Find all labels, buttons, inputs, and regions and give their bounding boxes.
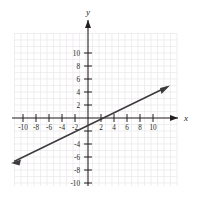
y-axis	[84, 20, 92, 186]
x-axis-label: x	[183, 113, 188, 123]
y-tick-label-2: 2	[76, 102, 80, 110]
x-tick-label-neg8: -8	[33, 124, 39, 132]
x-tick-label-neg4: -4	[59, 124, 65, 132]
y-tick-label-4: 4	[76, 89, 80, 97]
y-tick-label-neg10: -10	[70, 180, 80, 188]
y-axis-label: y	[85, 7, 90, 17]
x-tick-label-neg10: -10	[18, 124, 28, 132]
y-tick-label-neg6: -6	[74, 154, 80, 162]
y-tick-label-8: 8	[76, 63, 80, 71]
x-tick-label-10: 10	[149, 124, 157, 132]
x-tick-label-6: 6	[125, 124, 129, 132]
coordinate-graph: -10 -8 -6 -4 -2 2 4 6 8 10 2 4 6 8 10 -4…	[0, 0, 201, 198]
graph-svg: -10 -8 -6 -4 -2 2 4 6 8 10 2 4 6 8 10 -4…	[0, 0, 201, 198]
y-tick-label-neg8: -8	[74, 167, 80, 175]
y-tick-label-neg4: -4	[74, 141, 80, 149]
x-tick-label-neg2: -2	[72, 124, 78, 132]
x-tick-label-8: 8	[138, 124, 142, 132]
x-tick-label-4: 4	[112, 124, 116, 132]
x-tick-label-2: 2	[99, 124, 103, 132]
y-tick-label-10: 10	[73, 50, 81, 58]
line-arrow-right	[160, 86, 170, 95]
y-tick-label-6: 6	[76, 76, 80, 84]
y-axis-arrow	[85, 20, 91, 28]
x-tick-label-neg6: -6	[46, 124, 52, 132]
x-axis	[12, 114, 178, 122]
grid-lines	[15, 33, 178, 186]
